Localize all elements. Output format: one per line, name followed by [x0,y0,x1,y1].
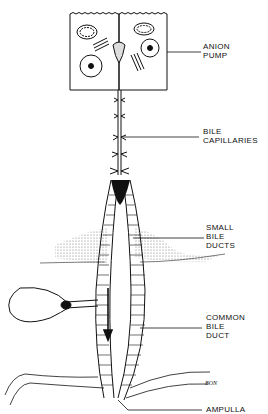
label-anion-pump: ANION PUMP [203,42,230,60]
arrow-down-icon [104,288,112,340]
leader-lines [118,52,204,410]
hepatocyte-left [70,13,119,91]
label-common-bile-duct: COMMON BILE DUCT [206,313,245,340]
hepatocyte-right [113,13,167,91]
label-ampulla: AMPULLA [206,405,245,414]
duct-walls [96,180,145,400]
duodenum [5,372,210,405]
artist-signature: BON [205,380,218,386]
label-small-bile-ducts: SMALL BILE DUCTS [206,223,235,250]
gallbladder [9,288,98,322]
bile-pathway-illustration: BON [0,0,268,414]
label-bile-capillaries: BILE CAPILLARIES [203,127,258,145]
duct-junction [111,180,130,205]
bile-capillary [110,90,129,175]
